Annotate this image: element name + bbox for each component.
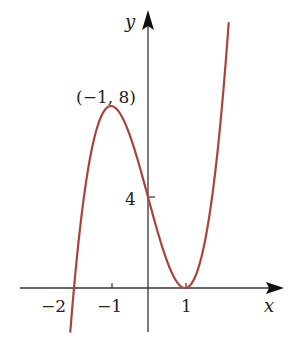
max-point-label: (−1, 8) [76, 87, 136, 107]
x-tick-label-1: 1 [181, 296, 192, 316]
x-axis-label: x [264, 295, 274, 316]
y-axis-label: y [124, 11, 136, 32]
function-curve [70, 23, 228, 332]
x-tick-label-neg2: −2 [41, 296, 66, 316]
x-tick-label-neg1: −1 [97, 296, 122, 316]
cubic-function-graph: y x (−1, 8) 4 −2 −1 1 [0, 0, 295, 345]
y-tick-label-4: 4 [125, 189, 136, 209]
